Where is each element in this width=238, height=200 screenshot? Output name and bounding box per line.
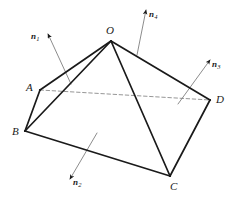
edge-A-B — [25, 90, 40, 131]
leader-n4 — [137, 10, 146, 55]
vertex-dot-C — [169, 175, 171, 177]
normal-label-n1: n1 — [31, 32, 39, 41]
normal-label-n2: n2 — [73, 178, 81, 187]
vertex-dots-group — [24, 40, 211, 177]
edge-O-B — [25, 41, 111, 131]
visible-edges-group — [25, 41, 210, 176]
vertex-dot-B — [24, 130, 26, 132]
geometry-figure: OABCD n1n2n3n4 — [0, 0, 238, 200]
edge-O-C — [111, 41, 170, 176]
normal-label-subscript-n3: 3 — [217, 63, 220, 70]
vertex-label-C: C — [170, 181, 177, 192]
pyramid-diagram-svg — [0, 0, 238, 200]
vertex-dot-D — [209, 99, 211, 101]
vertex-label-A: A — [26, 82, 33, 93]
normal-label-subscript-n4: 4 — [154, 13, 157, 20]
normal-label-subscript-n2: 2 — [78, 181, 81, 188]
leader-n2 — [70, 133, 97, 179]
normal-leader-lines-group — [48, 10, 210, 179]
vertex-label-D: D — [216, 94, 224, 105]
vertex-label-B: B — [12, 126, 19, 137]
vertex-dot-A — [39, 89, 41, 91]
vertex-label-O: O — [106, 25, 114, 36]
normal-label-subscript-n1: 1 — [36, 35, 39, 42]
vertex-dot-O — [110, 40, 112, 42]
edge-O-D — [111, 41, 210, 100]
edge-O-A — [40, 41, 111, 90]
normal-label-n4: n4 — [149, 10, 157, 19]
edge-B-C — [25, 131, 170, 176]
edge-C-D — [170, 100, 210, 176]
normal-label-n3: n3 — [212, 60, 220, 69]
